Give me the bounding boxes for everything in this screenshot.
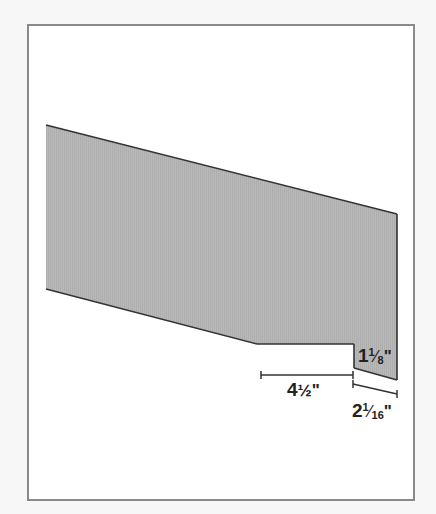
dimension-line-end-offset bbox=[353, 380, 397, 398]
label-whole: 1 bbox=[358, 345, 369, 366]
dimension-line-notch-width bbox=[261, 371, 353, 379]
board-profile-diagram bbox=[0, 0, 436, 514]
inch-mark: " bbox=[384, 402, 392, 421]
dimension-label-notch-depth: 11⁄8" bbox=[358, 346, 392, 366]
label-fraction: ½ bbox=[298, 381, 312, 400]
label-whole: 4 bbox=[287, 379, 298, 400]
dimension-label-notch-width: 4½" bbox=[287, 380, 320, 399]
board-shape bbox=[46, 125, 397, 380]
inch-mark: " bbox=[384, 347, 392, 366]
label-whole: 2 bbox=[352, 400, 363, 421]
label-denominator: 16 bbox=[372, 409, 384, 421]
inch-mark: " bbox=[312, 381, 320, 400]
dimension-label-end-offset: 21⁄16" bbox=[352, 401, 392, 421]
